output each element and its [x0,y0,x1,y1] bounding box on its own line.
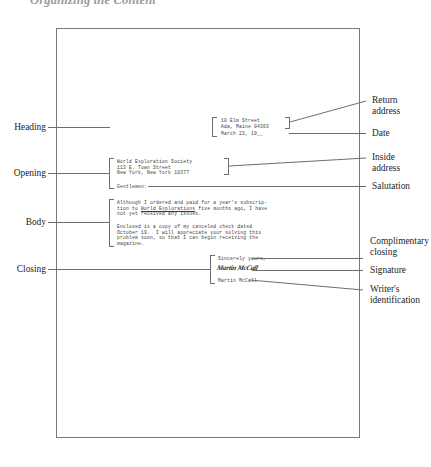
label-signature: Signature [370,265,406,276]
label-salutation: Salutation [372,181,410,192]
label-opening: Opening [0,168,46,179]
label-body: Body [0,217,46,228]
label-inside-address: Inside address [372,152,400,175]
leader-writer-identification [0,0,431,467]
label-writer-identification: Writer's identification [370,284,431,307]
label-closing: Closing [0,264,46,275]
label-date: Date [372,128,390,139]
label-complimentary-closing: Complimentary closing [370,236,431,259]
label-return-address: Return address [372,95,400,118]
label-heading: Heading [0,122,46,133]
